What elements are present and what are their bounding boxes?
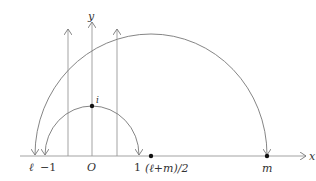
label-ell: ℓ bbox=[29, 161, 34, 174]
large-semicircle-right bbox=[151, 34, 267, 155]
small-semicircle-right bbox=[92, 106, 139, 155]
label-midpoint: (ℓ+m)/2 bbox=[145, 162, 189, 175]
large-semicircle-left bbox=[35, 34, 151, 155]
x-axis-label: x bbox=[309, 150, 316, 163]
label-origin: O bbox=[87, 161, 96, 174]
label-m: m bbox=[262, 162, 272, 175]
hyperbolic-geodesics-diagram: y x i ℓ −1 O 1 (ℓ+m)/2 m bbox=[0, 0, 316, 181]
label-one: 1 bbox=[134, 161, 141, 174]
label-i: i bbox=[96, 95, 99, 105]
point-i bbox=[90, 104, 94, 108]
small-semicircle-left bbox=[45, 106, 92, 155]
y-axis-label: y bbox=[87, 10, 95, 23]
point-midpoint bbox=[149, 154, 153, 158]
point-m bbox=[265, 154, 269, 158]
label-minus-one: −1 bbox=[40, 161, 56, 174]
